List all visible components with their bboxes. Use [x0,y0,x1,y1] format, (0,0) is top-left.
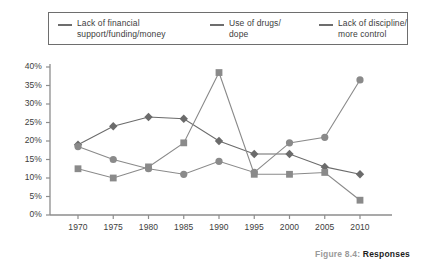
x-axis-tick-label: 2000 [274,222,306,232]
data-point-marker [286,171,293,178]
data-point-marker [180,115,188,123]
data-point-marker [74,143,81,150]
chart-plot-area: 0%5%10%15%20%25%30%35%40% 19701975198019… [0,52,423,242]
figure-container: Lack of financial support/funding/money … [0,0,423,268]
data-point-marker [215,158,222,165]
legend-line-icon [319,24,333,26]
data-point-marker [144,113,152,121]
legend-item-discipline: Lack of discipline/ more control [310,18,423,39]
y-axis-tick-label: 30% [8,98,42,108]
data-point-marker [215,137,223,145]
y-axis-tick-label: 0% [8,209,42,219]
x-axis-tick-label: 1990 [203,222,235,232]
legend-item-label: Lack of financial support/funding/money [77,18,166,39]
legend-item-label: Lack of discipline/ more control [338,18,407,39]
figure-caption: Figure 8.4: Responses [315,249,410,259]
data-point-marker [251,169,258,176]
y-axis-tick-label: 25% [8,117,42,127]
x-axis-tick-label: 2010 [344,222,376,232]
x-axis-tick-label: 1985 [168,222,200,232]
data-point-marker [145,165,152,172]
figure-caption-title: Responses [363,249,410,259]
series-line [78,73,360,201]
x-axis-tick-label: 2005 [309,222,341,232]
data-point-marker [75,165,82,172]
y-axis-tick-label: 10% [8,172,42,182]
data-point-marker [180,139,187,146]
y-axis-tick-label: 35% [8,80,42,90]
data-point-marker [109,122,117,130]
y-axis-tick-label: 40% [8,61,42,71]
data-point-marker [321,134,328,141]
data-point-marker [216,69,223,76]
x-axis-tick-label: 1995 [238,222,270,232]
data-point-marker [250,150,258,158]
legend-item-financial-support: Lack of financial support/funding/money [49,18,201,39]
chart-legend: Lack of financial support/funding/money … [48,12,408,45]
data-point-marker [321,169,328,176]
x-axis-tick-label: 1975 [97,222,129,232]
y-axis-tick-label: 5% [8,191,42,201]
legend-line-icon [58,24,72,26]
data-point-marker [356,76,363,83]
legend-line-icon [210,24,224,26]
data-point-marker [110,175,117,182]
data-point-marker [286,139,293,146]
data-point-marker [356,170,364,178]
series-line [78,117,360,174]
y-axis-tick-label: 15% [8,154,42,164]
legend-item-drugs: Use of drugs/ dope [201,18,310,39]
x-axis-tick-label: 1980 [133,222,165,232]
x-axis-tick-label: 1970 [62,222,94,232]
line-chart-svg [0,52,423,242]
data-point-marker [110,156,117,163]
figure-caption-prefix: Figure 8.4: [315,249,360,259]
data-point-marker [285,150,293,158]
legend-item-label: Use of drugs/ dope [229,18,281,39]
data-point-marker [357,197,364,204]
y-axis-tick-label: 20% [8,135,42,145]
data-point-marker [180,171,187,178]
